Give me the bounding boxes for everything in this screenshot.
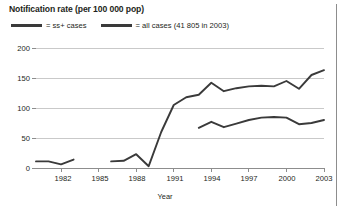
- chart-figure: Notification rate (per 100 000 pop) = ss…: [0, 0, 349, 210]
- y-tick-label: 0: [2, 164, 30, 173]
- x-tick-label: 1991: [158, 174, 192, 183]
- y-tick-label: 150: [2, 74, 30, 83]
- x-tick-label: 2003: [307, 174, 341, 183]
- x-tick-label: 1988: [120, 174, 154, 183]
- x-axis-title: Year: [0, 192, 330, 201]
- x-tick-label: 1982: [46, 174, 80, 183]
- axis-labels: 200 150 100 50 0 1982 1985 1988 1991 199…: [0, 0, 349, 210]
- x-tick-label: 1994: [195, 174, 229, 183]
- y-tick-label: 50: [2, 134, 30, 143]
- x-tick-label: 2000: [270, 174, 304, 183]
- y-tick-label: 200: [2, 44, 30, 53]
- x-tick-label: 1985: [83, 174, 117, 183]
- x-tick-label: 1997: [232, 174, 266, 183]
- y-tick-label: 100: [2, 104, 30, 113]
